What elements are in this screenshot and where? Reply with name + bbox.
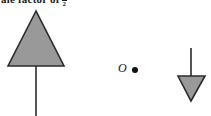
geometry-diagram: [0, 0, 211, 116]
small-down-triangle: [178, 76, 205, 101]
large-up-triangle: [8, 11, 64, 66]
figure-canvas: ale factor of12 O: [0, 0, 211, 116]
center-of-dilation-label: O: [118, 62, 127, 74]
center-of-dilation-dot: [132, 67, 138, 73]
